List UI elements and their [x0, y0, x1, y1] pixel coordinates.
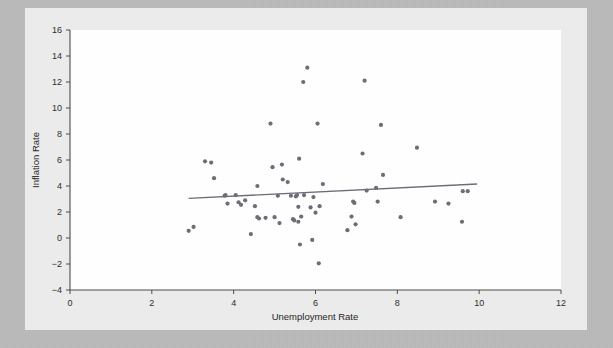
data-point: [310, 238, 314, 242]
data-point: [263, 216, 267, 220]
data-point: [308, 205, 312, 209]
data-point: [446, 201, 450, 205]
y-tick-label: 6: [57, 155, 62, 165]
x-tick-label: 2: [149, 298, 154, 308]
x-tick-label: 10: [474, 298, 484, 308]
data-point: [253, 204, 257, 208]
data-point: [466, 189, 470, 193]
x-axis-title: Unemployment Rate: [272, 311, 359, 322]
data-point: [363, 79, 367, 83]
y-tick-label: 16: [52, 25, 62, 35]
x-tick-label: 0: [67, 298, 72, 308]
y-tick-labels: −4−20246810121416: [52, 25, 62, 295]
y-tick-label: −4: [52, 285, 62, 295]
data-point: [212, 176, 216, 180]
data-point: [345, 228, 349, 232]
data-point: [249, 232, 253, 236]
data-point: [296, 205, 300, 209]
data-point: [191, 225, 195, 229]
data-point: [277, 221, 281, 225]
data-point: [313, 211, 317, 215]
data-point: [281, 177, 285, 181]
x-tick-label: 8: [395, 298, 400, 308]
data-point: [299, 214, 303, 218]
data-point: [203, 159, 207, 163]
x-tick-label: 6: [313, 298, 318, 308]
data-point: [317, 261, 321, 265]
x-tick-label: 12: [556, 298, 566, 308]
data-point: [187, 229, 191, 233]
data-point: [268, 122, 272, 126]
data-point: [239, 203, 243, 207]
figure-panel: −4−20246810121416 024681012 Unemployment…: [25, 8, 587, 330]
data-point: [317, 204, 321, 208]
data-point: [321, 182, 325, 186]
y-tick-label: 12: [52, 77, 62, 87]
data-point: [399, 215, 403, 219]
plot-background: [70, 30, 561, 290]
y-tick-label: 14: [52, 51, 62, 61]
x-tick-label: 4: [231, 298, 236, 308]
data-point: [297, 157, 301, 161]
x-tick-labels: 024681012: [67, 298, 566, 308]
data-point: [280, 162, 284, 166]
data-point: [433, 200, 437, 204]
data-point: [289, 194, 293, 198]
data-point: [415, 146, 419, 150]
y-tick-label: 4: [57, 181, 62, 191]
y-axis-title: Inflation Rate: [30, 132, 41, 188]
data-point: [461, 189, 465, 193]
data-point: [305, 66, 309, 70]
data-point: [209, 161, 213, 165]
y-tick-label: 0: [57, 233, 62, 243]
y-tick-label: −2: [52, 259, 62, 269]
data-point: [349, 214, 353, 218]
data-point: [298, 242, 302, 246]
data-point: [302, 193, 306, 197]
data-point: [270, 165, 274, 169]
data-point: [460, 220, 464, 224]
data-point: [360, 151, 364, 155]
data-point: [311, 195, 315, 199]
data-point: [292, 218, 296, 222]
data-point: [352, 201, 356, 205]
data-point: [296, 220, 300, 224]
data-point: [286, 180, 290, 184]
data-point: [243, 198, 247, 202]
data-point: [381, 173, 385, 177]
y-tick-label: 2: [57, 207, 62, 217]
data-point: [379, 123, 383, 127]
scatter-plot: −4−20246810121416 024681012 Unemployment…: [25, 8, 587, 330]
data-point: [376, 200, 380, 204]
data-point: [272, 215, 276, 219]
data-point: [257, 216, 261, 220]
data-point: [225, 201, 229, 205]
data-point: [315, 122, 319, 126]
data-point: [354, 222, 358, 226]
data-point: [255, 184, 259, 188]
data-point: [301, 80, 305, 84]
y-tick-label: 8: [57, 129, 62, 139]
y-tick-label: 10: [52, 103, 62, 113]
